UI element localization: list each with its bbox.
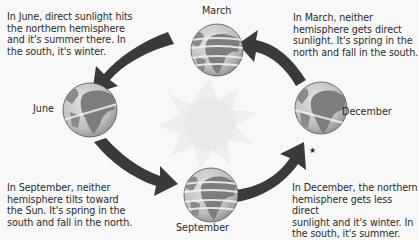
- caption-line: the south, it's summer.: [292, 228, 419, 240]
- caption-line: the northern hemisphere: [7, 23, 133, 35]
- caption-line: sunlight and it's winter. In: [292, 217, 419, 229]
- globe-december: [295, 82, 347, 134]
- globe-june: [63, 83, 117, 137]
- caption-march: In March, neither hemisphere gets direct…: [293, 12, 418, 58]
- caption-line: hemisphere gets direct: [293, 24, 418, 36]
- caption-line: In June, direct sunlight hits: [7, 11, 133, 23]
- caption-line: sunlight. It's spring in the: [293, 35, 418, 47]
- label-june: June: [33, 103, 54, 114]
- globe-september: [184, 168, 238, 222]
- caption-line: north and fall in the south.: [293, 47, 418, 59]
- label-december: December: [342, 106, 392, 117]
- caption-line: In September, neither: [7, 182, 132, 194]
- caption-september: In September, neither hemisphere tilts t…: [7, 182, 132, 228]
- caption-june: In June, direct sunlight hits the northe…: [7, 11, 133, 57]
- caption-line: hemisphere tilts toward: [7, 194, 132, 206]
- caption-line: and it's summer there. In: [7, 34, 133, 46]
- caption-line: the south, it's winter.: [7, 46, 133, 58]
- label-march: March: [202, 5, 231, 16]
- sun-icon: [158, 78, 256, 170]
- seasons-diagram: March June September December ★ In June,…: [0, 0, 419, 240]
- caption-line: In December, the northern: [292, 182, 419, 194]
- caption-line: the Sun. It's spring in the: [7, 205, 132, 217]
- caption-line: hemisphere gets less direct: [292, 194, 419, 217]
- globe-march: [191, 24, 243, 76]
- label-september: September: [176, 222, 229, 233]
- star-marker: ★: [309, 146, 316, 155]
- caption-line: south and fall in the north.: [7, 217, 132, 229]
- caption-december: In December, the northern hemisphere get…: [292, 182, 419, 240]
- caption-line: In March, neither: [293, 12, 418, 24]
